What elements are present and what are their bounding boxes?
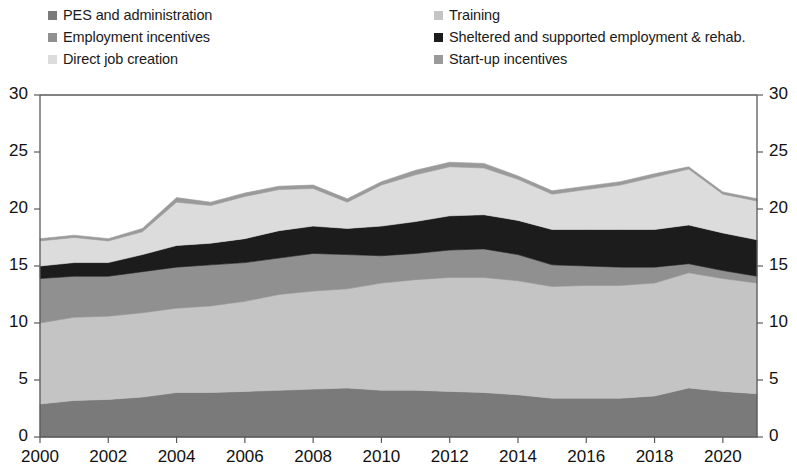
legend-swatch-icon	[434, 55, 443, 64]
x-axis-tick-label: 2016	[556, 447, 616, 467]
y-axis-tick-label-right: 30	[769, 84, 788, 104]
y-axis-tick-label-left: 20	[0, 198, 28, 218]
y-axis-tick-label-right: 0	[769, 426, 778, 446]
legend-item-label: Sheltered and supported employment & reh…	[449, 26, 745, 48]
y-axis-tick-label-right: 10	[769, 312, 788, 332]
legend-column-left: PES and administrationEmployment incenti…	[48, 4, 212, 70]
y-axis-tick-label-right: 5	[769, 369, 778, 389]
y-axis-tick-label-left: 0	[0, 426, 28, 446]
y-axis-tick-label-right: 20	[769, 198, 788, 218]
legend-column-right: TrainingSheltered and supported employme…	[434, 4, 745, 70]
legend-item-direct_job_creation[interactable]: Direct job creation	[48, 48, 212, 70]
x-axis-tick-label: 2006	[215, 447, 275, 467]
legend-item-startup[interactable]: Start-up incentives	[434, 48, 745, 70]
x-axis-tick-label: 2008	[283, 447, 343, 467]
x-axis-tick-label: 2014	[488, 447, 548, 467]
y-axis-tick-label-left: 5	[0, 369, 28, 389]
legend-item-label: Start-up incentives	[449, 48, 567, 70]
legend-swatch-icon	[48, 55, 57, 64]
x-axis-tick-label: 2000	[10, 447, 70, 467]
chart-page: PES and administrationEmployment incenti…	[0, 0, 797, 467]
legend-item-employment_incentives[interactable]: Employment incentives	[48, 26, 212, 48]
x-axis-tick-label: 2004	[147, 447, 207, 467]
y-axis-tick-label-right: 25	[769, 141, 788, 161]
legend-swatch-icon	[48, 11, 57, 20]
y-axis-tick-label-left: 30	[0, 84, 28, 104]
stacked-area-chart: 0055101015152020252530302000200220042006…	[0, 78, 797, 467]
plot-area	[0, 78, 797, 467]
legend-swatch-icon	[434, 33, 443, 42]
legend-item-sheltered[interactable]: Sheltered and supported employment & reh…	[434, 26, 745, 48]
y-axis-tick-label-left: 15	[0, 255, 28, 275]
legend-item-label: Training	[449, 4, 500, 26]
x-axis-tick-label: 2002	[78, 447, 138, 467]
x-axis-tick-label: 2020	[693, 447, 753, 467]
y-axis-tick-label-right: 15	[769, 255, 788, 275]
legend-item-label: PES and administration	[63, 4, 212, 26]
legend-item-label: Employment incentives	[63, 26, 210, 48]
y-axis-tick-label-left: 10	[0, 312, 28, 332]
x-axis-tick-label: 2012	[420, 447, 480, 467]
y-axis-tick-label-left: 25	[0, 141, 28, 161]
legend-item-pes[interactable]: PES and administration	[48, 4, 212, 26]
x-axis-tick-label: 2010	[351, 447, 411, 467]
legend-item-training[interactable]: Training	[434, 4, 745, 26]
legend-item-label: Direct job creation	[63, 48, 178, 70]
chart-legend: PES and administrationEmployment incenti…	[0, 0, 797, 78]
legend-swatch-icon	[48, 33, 57, 42]
legend-swatch-icon	[434, 11, 443, 20]
x-axis-tick-label: 2018	[625, 447, 685, 467]
